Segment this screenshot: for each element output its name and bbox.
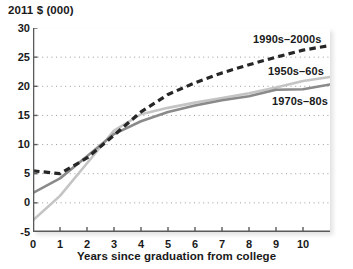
line-chart-canvas xyxy=(33,28,330,232)
x-axis-label: Years since graduation from college xyxy=(0,250,353,262)
x-tick-label: 8 xyxy=(238,239,260,250)
x-tick-label: 9 xyxy=(265,239,287,250)
x-tick-label: 1 xyxy=(49,239,71,250)
x-tick-label: 7 xyxy=(211,239,233,250)
x-tick-label: 3 xyxy=(103,239,125,250)
x-tick-label: 2 xyxy=(76,239,98,250)
x-tick-label: 4 xyxy=(130,239,152,250)
series-label-1950s-60s: 1950s–60s xyxy=(268,65,324,77)
series-label-1990s-2000s: 1990s–2000s xyxy=(253,33,321,45)
x-tick-label: 10 xyxy=(292,239,314,250)
plot-area xyxy=(33,28,330,232)
series-label-1970s-80s: 1970s–80s xyxy=(272,95,328,107)
chart-figure: 2011 $ (000) 302520151050-5 012345678910… xyxy=(0,0,353,269)
x-tick-label: 5 xyxy=(157,239,179,250)
x-tick-label: 6 xyxy=(184,239,206,250)
plot-area-wrapper xyxy=(33,28,330,232)
x-tick-label: 0 xyxy=(22,239,44,250)
